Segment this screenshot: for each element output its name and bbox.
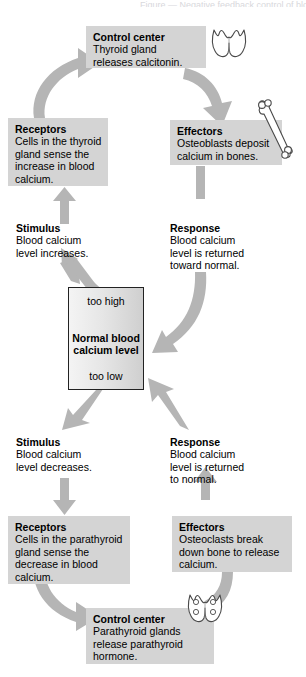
stimulus-bottom-heading: Stimulus <box>16 436 131 448</box>
bone-icon <box>247 98 297 160</box>
receptors-bottom-line3: decrease in blood <box>15 558 124 570</box>
too-high-label: too high <box>69 295 143 307</box>
receptors-bottom-line2: gland sense the <box>15 546 124 558</box>
response-top-line1: Blood calcium <box>170 234 290 246</box>
stimulus-top-line1: Blood calcium <box>16 234 126 246</box>
control-center-top-heading: Control center <box>93 31 200 43</box>
effectors-bottom-heading: Effectors <box>179 521 286 533</box>
effectors-bottom-line3: calcium. <box>179 558 286 570</box>
arrow-normal-to-stimulus-bottom <box>62 386 105 430</box>
stimulus-bottom-line2: level decreases. <box>16 461 131 473</box>
node-receptors-top: Receptors Cells in the thyroid gland sen… <box>8 118 108 186</box>
node-control-center-top: Control center Thyroid gland releases ca… <box>86 26 206 68</box>
response-bottom-line2: level is returned <box>170 461 290 473</box>
response-bottom-line1: Blood calcium <box>170 448 290 460</box>
receptors-bottom-line1: Cells in the parathyroid <box>15 533 124 545</box>
receptors-top-line2: gland sense the <box>15 148 102 160</box>
response-bottom-heading: Response <box>170 436 290 448</box>
arrow-response-to-normal-bottom <box>148 378 189 430</box>
receptors-top-line3: increase in blood <box>15 160 102 172</box>
response-bottom-line3: to normal. <box>170 473 290 485</box>
response-top-line2: level is returned <box>170 247 290 259</box>
response-top-heading: Response <box>170 222 290 234</box>
normal-level-line1: Normal blood <box>72 332 140 344</box>
arrow-stimulus-to-receptors-top <box>53 187 76 224</box>
arrow-stimulus-to-receptors-bottom <box>53 478 76 515</box>
control-center-bottom-line3: hormone. <box>93 650 208 662</box>
control-center-top-line1: Thyroid gland <box>93 43 200 55</box>
effectors-bottom-line1: Osteoclasts break <box>179 533 286 545</box>
node-effectors-bottom: Effectors Osteoclasts break down bone to… <box>172 516 292 572</box>
parathyroid-gland-icon <box>182 588 228 630</box>
arrow-control-center-to-effectors <box>183 68 232 126</box>
normal-level-label: Normal blood calcium level <box>69 332 143 357</box>
receptors-top-line1: Cells in the thyroid <box>15 135 102 147</box>
feedback-loop-diagram: Figure — Negative feedback control of bl… <box>0 0 306 677</box>
stimulus-top-line2: level increases. <box>16 247 126 259</box>
receptors-top-line4: calcium. <box>15 173 102 185</box>
stimulus-bottom-line1: Blood calcium <box>16 448 131 460</box>
too-low-label: too low <box>69 370 143 382</box>
central-normal-range-box: too high Normal blood calcium level too … <box>68 287 144 390</box>
normal-level-line2: calcium level <box>73 344 138 356</box>
response-top-line3: toward normal. <box>170 259 290 271</box>
stimulus-top-heading: Stimulus <box>16 222 126 234</box>
node-receptors-bottom: Receptors Cells in the parathyroid gland… <box>8 516 130 584</box>
label-stimulus-top: Stimulus Blood calcium level increases. <box>16 222 126 259</box>
thyroid-gland-icon <box>206 24 252 64</box>
receptors-bottom-line4: calcium. <box>15 571 124 583</box>
control-center-bottom-line2: release parathyroid <box>93 638 208 650</box>
receptors-bottom-heading: Receptors <box>15 521 124 533</box>
receptors-top-heading: Receptors <box>15 123 102 135</box>
label-response-top: Response Blood calcium level is returned… <box>170 222 290 272</box>
arrow-response-to-normal-top <box>152 272 206 353</box>
clipped-caption-text: Figure — Negative feedback control of bl… <box>140 0 306 7</box>
effectors-bottom-line2: down bone to release <box>179 546 286 558</box>
label-stimulus-bottom: Stimulus Blood calcium level decreases. <box>16 436 131 473</box>
control-center-top-line2: releases calcitonin. <box>93 56 200 68</box>
arrow-effectors-down <box>196 166 205 199</box>
label-response-bottom: Response Blood calcium level is returned… <box>170 436 290 486</box>
